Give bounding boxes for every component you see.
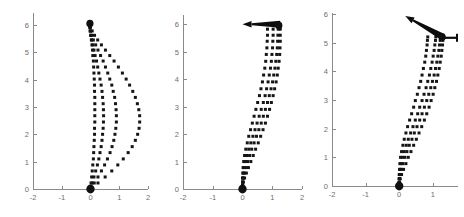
data-point xyxy=(92,49,95,52)
data-point xyxy=(272,74,275,77)
y-tick-label: 1 xyxy=(25,158,29,167)
data-point xyxy=(92,151,95,154)
data-point xyxy=(121,72,124,75)
data-point xyxy=(102,60,105,63)
data-point xyxy=(91,43,94,46)
data-point xyxy=(268,94,271,97)
data-point xyxy=(259,87,262,90)
data-point xyxy=(422,67,425,70)
horizontal-arrow-head xyxy=(243,21,252,27)
data-point xyxy=(112,90,115,93)
data-point xyxy=(426,35,429,38)
data-point xyxy=(431,80,434,83)
data-point xyxy=(93,90,96,93)
origin-marker xyxy=(238,185,246,194)
data-point xyxy=(428,74,431,77)
data-point xyxy=(275,53,278,56)
data-point xyxy=(275,80,278,83)
data-point xyxy=(400,173,403,176)
data-point xyxy=(92,38,95,41)
x-tick-label: -1 xyxy=(362,190,369,199)
data-point xyxy=(276,46,279,49)
data-point xyxy=(261,80,264,83)
data-point xyxy=(278,53,281,56)
data-point xyxy=(134,96,137,99)
data-point xyxy=(93,114,96,117)
data-point xyxy=(434,39,437,42)
data-point xyxy=(102,121,105,124)
data-point xyxy=(413,131,416,134)
data-point xyxy=(426,39,429,42)
data-point xyxy=(137,108,140,111)
data-point xyxy=(410,112,413,115)
data-point xyxy=(406,125,409,128)
data-point xyxy=(404,131,407,134)
data-point xyxy=(270,87,273,90)
data-point xyxy=(409,131,412,134)
data-point xyxy=(115,114,118,117)
data-point xyxy=(134,139,137,142)
data-point xyxy=(276,74,279,77)
data-point xyxy=(254,108,257,111)
data-point xyxy=(433,86,436,89)
data-point xyxy=(110,84,113,87)
data-point xyxy=(441,43,444,46)
data-point xyxy=(247,148,250,151)
data-point xyxy=(117,66,120,69)
series-2 xyxy=(88,23,105,191)
series-1 xyxy=(241,23,269,191)
data-point xyxy=(421,74,424,77)
data-point xyxy=(259,135,262,138)
data-point xyxy=(272,94,275,97)
data-point xyxy=(101,96,104,99)
y-tick-label: 3 xyxy=(324,96,328,105)
data-point xyxy=(91,163,94,166)
data-point xyxy=(96,175,99,178)
data-point xyxy=(440,55,443,58)
data-point xyxy=(407,156,410,159)
data-point xyxy=(114,127,117,130)
data-point xyxy=(91,169,94,172)
data-point xyxy=(100,43,103,46)
data-point xyxy=(404,162,407,165)
data-point xyxy=(93,181,96,184)
data-point xyxy=(265,87,268,90)
data-point xyxy=(432,93,435,96)
data-point xyxy=(270,101,273,104)
x-tick-label: 0 xyxy=(240,193,244,202)
data-point xyxy=(100,84,103,87)
data-point xyxy=(93,139,96,142)
data-point xyxy=(113,60,116,63)
data-point xyxy=(92,66,95,69)
data-point xyxy=(421,99,424,102)
y-tick-label: 0 xyxy=(25,185,29,194)
data-point xyxy=(403,138,406,141)
data-point xyxy=(438,43,441,46)
data-point xyxy=(249,128,252,131)
data-point xyxy=(269,67,272,70)
data-point xyxy=(405,144,408,147)
data-point xyxy=(423,61,426,64)
data-point xyxy=(264,122,267,125)
data-point xyxy=(429,67,432,70)
data-point xyxy=(244,166,247,169)
data-point xyxy=(93,96,96,99)
data-point xyxy=(101,139,104,142)
data-point xyxy=(102,108,105,111)
origin-marker xyxy=(86,185,94,194)
data-point xyxy=(434,67,437,70)
data-point xyxy=(418,119,421,122)
data-point xyxy=(243,177,246,180)
data-point xyxy=(262,101,265,104)
pivot-blob xyxy=(439,33,446,41)
data-point xyxy=(98,78,101,81)
data-point xyxy=(97,72,100,75)
panel-left: 0123456-2-1012 xyxy=(0,0,155,217)
panel-middle-axes: 0123456-2-1012 xyxy=(175,15,304,202)
data-point xyxy=(93,127,96,130)
data-point xyxy=(264,94,267,97)
data-point xyxy=(407,138,410,141)
data-point xyxy=(104,175,107,178)
data-point xyxy=(93,108,96,111)
series-2 xyxy=(241,23,275,191)
